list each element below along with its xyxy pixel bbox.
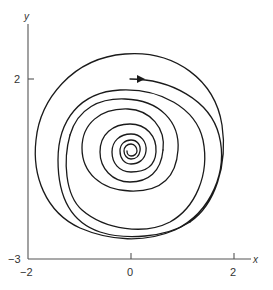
y-tick-label-2: 2 — [14, 73, 20, 85]
direction-arrow-icon — [137, 75, 145, 83]
axes — [28, 24, 251, 259]
phase-plot: y x 2 −3 −2 0 2 — [0, 0, 273, 290]
y-tick-label-neg3: −3 — [8, 253, 21, 265]
trajectory-outer-loop — [35, 54, 223, 239]
x-axis-label: x — [252, 254, 259, 265]
trajectory-loop-3 — [70, 99, 178, 191]
x-tick-label-neg2: −2 — [20, 266, 33, 278]
trajectory — [35, 54, 223, 239]
trajectory-inner-spiral — [100, 124, 163, 182]
y-axis-label: y — [23, 11, 30, 22]
x-tick-label-2: 2 — [230, 266, 236, 278]
x-tick-label-0: 0 — [127, 266, 133, 278]
trajectory-loop-2 — [58, 90, 205, 237]
